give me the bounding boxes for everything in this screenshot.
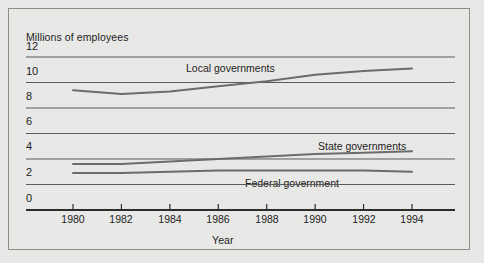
chart-figure: Millions of employees Year 12 10 8 6 4 2… bbox=[0, 0, 484, 263]
plot-area bbox=[0, 0, 484, 263]
series-lines bbox=[73, 68, 412, 173]
gridlines bbox=[26, 57, 455, 185]
